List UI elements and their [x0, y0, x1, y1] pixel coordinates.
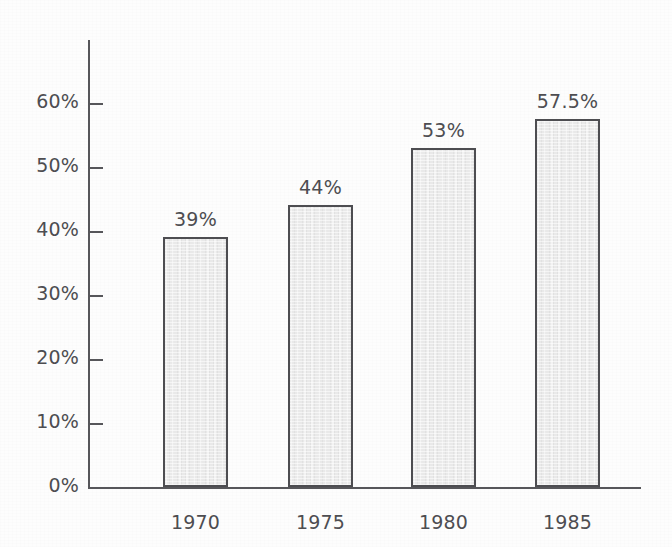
y-axis-tick-20pct: 20%: [0, 359, 103, 361]
bar: [288, 205, 353, 487]
bar-value-label: 53%: [422, 119, 465, 141]
y-axis-tick-mark: [90, 103, 103, 105]
x-axis-category-label: 1985: [543, 511, 592, 533]
bar: [535, 119, 600, 487]
bar-group: 53%: [411, 40, 476, 487]
y-axis-tick-label: 10%: [5, 410, 79, 432]
x-axis-category-1975: 1975: [288, 489, 353, 490]
bar-group: 57.5%: [535, 40, 600, 487]
bar-chart: 60%50%40%30%20%10%0% 39%44%53%57.5% 1970…: [0, 0, 672, 547]
y-axis-tick-40pct: 40%: [0, 231, 103, 233]
bar-group: 39%: [163, 40, 228, 487]
y-axis-tick-label: 30%: [5, 282, 79, 304]
x-axis-category-1980: 1980: [411, 489, 476, 490]
y-axis-tick-mark: [90, 359, 103, 361]
y-axis-line: [88, 40, 90, 489]
y-axis-tick-30pct: 30%: [0, 295, 103, 297]
x-axis-category-label: 1975: [296, 511, 345, 533]
bar-group: 44%: [288, 40, 353, 487]
y-axis-tick-label: 50%: [5, 154, 79, 176]
y-axis-tick-label: 0%: [5, 474, 79, 496]
y-axis-tick-mark: [90, 295, 103, 297]
x-axis-category-1985: 1985: [535, 489, 600, 490]
bar-value-label: 57.5%: [537, 90, 598, 112]
y-axis-tick-label: 40%: [5, 218, 79, 240]
x-axis-category-1970: 1970: [163, 489, 228, 490]
y-axis-tick-60pct: 60%: [0, 103, 103, 105]
y-axis-tick-mark: [90, 167, 103, 169]
y-axis-tick-mark: [90, 423, 103, 425]
y-axis-tick-label: 60%: [5, 90, 79, 112]
bar: [163, 237, 228, 487]
y-axis-tick-mark: [90, 231, 103, 233]
y-axis-tick-0pct: 0%: [0, 487, 103, 489]
x-axis-category-label: 1970: [171, 511, 220, 533]
y-axis-tick-10pct: 10%: [0, 423, 103, 425]
bar: [411, 148, 476, 487]
y-axis-tick-50pct: 50%: [0, 167, 103, 169]
x-axis-category-label: 1980: [419, 511, 468, 533]
y-axis-tick-label: 20%: [5, 346, 79, 368]
bar-value-label: 39%: [174, 208, 217, 230]
bar-value-label: 44%: [299, 176, 342, 198]
